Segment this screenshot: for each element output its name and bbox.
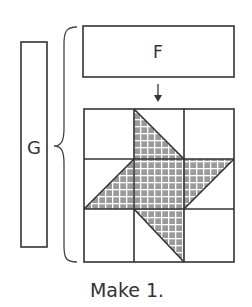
g-label: G (27, 137, 41, 158)
quilt-diagram: G F Make 1. (0, 0, 252, 307)
f-piece: F (83, 26, 234, 77)
down-arrow-icon (154, 84, 162, 102)
caption: Make 1. (90, 279, 164, 301)
brace-icon (54, 27, 77, 262)
g-piece: G (21, 42, 47, 247)
star-block (84, 109, 234, 262)
f-label: F (153, 42, 163, 62)
